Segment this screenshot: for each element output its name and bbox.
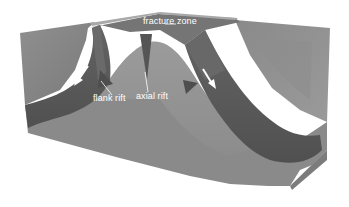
fracture-zone-label: fracture zone bbox=[143, 16, 197, 26]
flank-rift-label: flank rift bbox=[93, 93, 126, 103]
ridge-block-diagram: fracture zone flank rift axial rift bbox=[0, 0, 349, 207]
axial-rift-label: axial rift bbox=[136, 91, 168, 101]
diagram-canvas bbox=[0, 0, 349, 207]
